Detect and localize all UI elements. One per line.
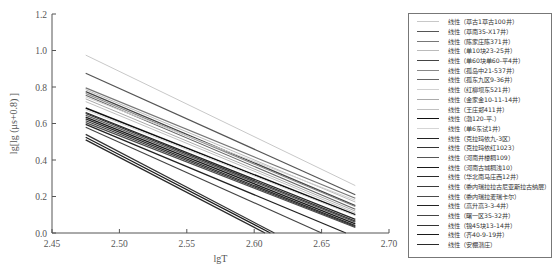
legend-swatch-icon <box>417 118 439 119</box>
legend-swatch-icon <box>417 244 439 245</box>
legend-item: 线性（陈家庄陈371井） <box>409 36 551 46</box>
y-tick-label: 1.0 <box>35 46 47 56</box>
legend-item: 线性（曙一区35-32井） <box>409 211 551 221</box>
legend-label: 线性（草南35-X17井） <box>448 27 512 36</box>
legend-label: 线性（齐40-9-19井） <box>448 230 508 239</box>
series-line-5 <box>86 93 356 206</box>
legend-swatch-icon <box>417 109 439 110</box>
legend-label: 线性（克拉玛依九-3区） <box>448 134 514 143</box>
legend-item: 线性（单60块单60-平4井） <box>409 56 551 66</box>
x-tick-label: 2.45 <box>44 239 61 249</box>
legend-swatch-icon <box>417 147 439 148</box>
y-tick-label: 0.8 <box>35 83 47 93</box>
legend-swatch-icon <box>417 176 439 177</box>
legend-item: 线性（齐40-9-19井） <box>409 230 551 240</box>
legend-item: 线性（委内瑞拉拉古尼亚斯拉古纳层） <box>409 182 551 192</box>
legend-item: 线性（渤120-平.） <box>409 114 551 124</box>
legend-label: 线性（曙一区35-32井） <box>448 211 514 220</box>
x-axis-label: lgT <box>214 253 228 264</box>
y-tick-label: 0.6 <box>35 119 47 129</box>
legend-item: 线性（克拉玛依红1023） <box>409 143 551 153</box>
legend-item: 线性（单6东试1井） <box>409 124 551 134</box>
legend-swatch-icon <box>417 138 439 139</box>
legend-swatch-icon <box>417 99 439 100</box>
series-line-14 <box>86 115 356 222</box>
legend-item: 线性（克拉玛依九-3区） <box>409 133 551 143</box>
legend-label: 线性（河南井楼稠109） <box>448 153 514 162</box>
legend-item: 线性（高升高3-3-4井） <box>409 201 551 211</box>
series-line-2 <box>86 88 356 198</box>
legend-swatch-icon <box>417 41 439 42</box>
legend-swatch-icon <box>417 89 439 90</box>
y-axis-label: lg[lg (μs+0.8) ] <box>8 93 20 154</box>
legend-label: 线性（单10块23-25井） <box>448 46 516 55</box>
series-line-15 <box>86 117 356 224</box>
legend-swatch-icon <box>417 225 439 226</box>
legend-swatch-icon <box>417 196 439 197</box>
legend-label: 线性（河南古城稠浅10） <box>448 163 516 172</box>
legend-swatch-icon <box>417 167 439 168</box>
legend-label: 线性（高升高3-3-4井） <box>448 201 512 210</box>
series-line-9 <box>86 102 356 213</box>
series-line-18 <box>86 123 356 228</box>
legend-item: 线性（孤岛中21-537井） <box>409 65 551 75</box>
series-line-7 <box>86 97 356 200</box>
y-tick-label: 1.2 <box>35 10 47 20</box>
legend-label: 线性（陈家庄陈371井） <box>448 37 514 46</box>
legend-label: 线性（孤东九区9-36井） <box>448 75 516 84</box>
legend-item: 线性（锦45块13-14井） <box>409 220 551 230</box>
legend-swatch-icon <box>417 234 439 235</box>
y-tick-label: 0.4 <box>35 156 47 166</box>
legend-label: 线性（金家金10-11-14井） <box>448 95 524 104</box>
y-tick-label: 0.2 <box>35 192 47 202</box>
x-tick-label: 2.65 <box>313 239 330 249</box>
legend-label: 线性（华北南马庄西12井） <box>448 172 522 181</box>
legend-label: 线性（红柳坝东521井） <box>448 85 514 94</box>
legend-label: 线性（单60块单60-平4井） <box>448 56 524 65</box>
legend-label: 线性（委内瑞拉麦瑞卡尔） <box>448 192 520 201</box>
legend-label: 线性（渤120-平.） <box>448 114 500 123</box>
legend-label: 线性（草古1草古100井） <box>448 17 518 26</box>
legend-item: 线性（安棚潜庄） <box>409 240 551 250</box>
legend-swatch-icon <box>417 205 439 206</box>
legend-swatch-icon <box>417 79 439 80</box>
legend-swatch-icon <box>417 70 439 71</box>
legend-swatch-icon <box>417 186 439 187</box>
legend-swatch-icon <box>417 31 439 32</box>
legend-item: 线性（单10块23-25井） <box>409 46 551 56</box>
legend-label: 线性（安棚潜庄） <box>448 240 496 249</box>
axes: 2.452.502.552.602.652.700.00.20.40.60.81… <box>8 10 398 265</box>
legend-item: 线性（草南35-X17井） <box>409 27 551 37</box>
legend-item: 线性（委内瑞拉麦瑞卡尔） <box>409 191 551 201</box>
x-tick-label: 2.55 <box>178 239 195 249</box>
x-tick-label: 2.70 <box>381 239 398 249</box>
legend-label: 线性（单6东试1井） <box>448 124 504 133</box>
legend-label: 线性（锦45块13-14井） <box>448 221 516 230</box>
legend-swatch-icon <box>417 60 439 61</box>
x-tick-label: 2.50 <box>111 239 128 249</box>
legend-swatch-icon <box>417 50 439 51</box>
legend-item: 线性（孤东九区9-36井） <box>409 75 551 85</box>
legend-item: 线性（红柳坝东521井） <box>409 85 551 95</box>
legend-item: 线性（王庄郑411井） <box>409 104 551 114</box>
legend-swatch-icon <box>417 157 439 158</box>
series-line-11 <box>86 110 356 216</box>
series-lines <box>86 55 356 233</box>
legend-item: 线性（草古1草古100井） <box>409 17 551 27</box>
legend-label: 线性（孤岛中21-537井） <box>448 66 518 75</box>
legend-swatch-icon <box>417 215 439 216</box>
legend-item: 线性（河南井楼稠109） <box>409 153 551 163</box>
series-line-1 <box>86 73 356 194</box>
legend-swatch-icon <box>417 128 439 129</box>
x-tick-label: 2.60 <box>246 239 263 249</box>
legend-item: 线性（金家金10-11-14井） <box>409 95 551 105</box>
series-line-17 <box>86 121 356 227</box>
legend-label: 线性（克拉玛依红1023） <box>448 143 518 152</box>
legend-label: 线性（王庄郑411井） <box>448 105 508 114</box>
legend-item: 线性（华北南马庄西12井） <box>409 172 551 182</box>
legend-label: 线性（委内瑞拉拉古尼亚斯拉古纳层） <box>448 182 550 191</box>
legend-swatch-icon <box>417 21 439 22</box>
legend: 线性（草古1草古100井）线性（草南35-X17井）线性（陈家庄陈371井）线性… <box>408 13 552 258</box>
legend-item: 线性（河南古城稠浅10） <box>409 162 551 172</box>
y-tick-label: 0.0 <box>35 229 47 239</box>
